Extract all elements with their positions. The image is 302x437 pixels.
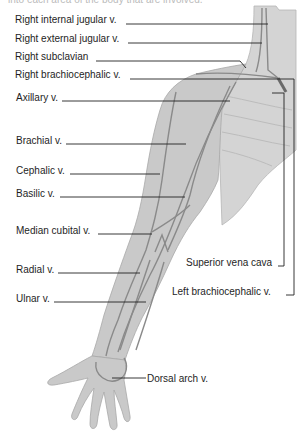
label-radial: Radial v. [16, 264, 54, 276]
label-right-subclavian: Right subclavian [15, 51, 88, 63]
label-brachial: Brachial v. [16, 135, 62, 147]
label-dorsal-arch: Dorsal arch v. [147, 373, 208, 385]
label-right-internal-jugular: Right internal jugular v. [15, 14, 117, 26]
arm-vein-illustration [0, 0, 302, 437]
label-median-cubital: Median cubital v. [16, 225, 90, 237]
label-axillary: Axillary v. [16, 92, 58, 104]
label-ulnar: Ulnar v. [16, 293, 50, 305]
label-right-external-jugular: Right external jugular v. [15, 33, 119, 45]
label-left-brachiocephalic: Left brachiocephalic v. [172, 286, 271, 298]
label-right-brachiocephalic: Right brachiocephalic v. [15, 69, 120, 81]
label-superior-vena-cava: Superior vena cava [186, 257, 272, 269]
hand-outline [48, 356, 130, 430]
label-basilic: Basilic v. [16, 188, 55, 200]
label-cephalic: Cephalic v. [16, 165, 65, 177]
